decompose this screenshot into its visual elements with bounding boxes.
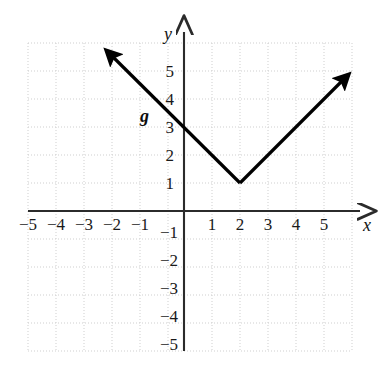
coordinate-plane-svg xyxy=(0,0,388,376)
x-tick-label-1: 1 xyxy=(202,216,222,233)
x-tick-label-neg1: −1 xyxy=(130,216,150,233)
y-tick-label-neg5: −5 xyxy=(150,336,178,353)
x-tick-label-3: 3 xyxy=(258,216,278,233)
grid-lines xyxy=(28,43,352,351)
x-tick-label-neg5: −5 xyxy=(18,216,38,233)
y-tick-label-4: 4 xyxy=(150,91,174,108)
x-tick-label-neg2: −2 xyxy=(102,216,122,233)
graph-figure: −5 −4 −3 −2 −1 1 2 3 4 5 5 4 3 2 1 −1 −2… xyxy=(0,0,388,376)
y-tick-label-neg4: −4 xyxy=(150,308,178,325)
y-axis-label: y xyxy=(164,25,172,43)
x-tick-label-2: 2 xyxy=(230,216,250,233)
x-tick-label-neg3: −3 xyxy=(74,216,94,233)
y-tick-label-neg2: −2 xyxy=(150,252,178,269)
curve-label-g: g xyxy=(140,107,149,125)
y-tick-label-1: 1 xyxy=(150,175,174,192)
y-tick-label-neg3: −3 xyxy=(150,280,178,297)
x-tick-label-neg4: −4 xyxy=(46,216,66,233)
y-tick-label-neg1: −1 xyxy=(150,224,178,241)
x-tick-label-4: 4 xyxy=(286,216,306,233)
y-tick-label-3: 3 xyxy=(150,119,174,136)
x-tick-label-5: 5 xyxy=(314,216,334,233)
y-tick-label-2: 2 xyxy=(150,147,174,164)
x-axis-label: x xyxy=(363,216,371,234)
y-tick-label-5: 5 xyxy=(150,63,174,80)
